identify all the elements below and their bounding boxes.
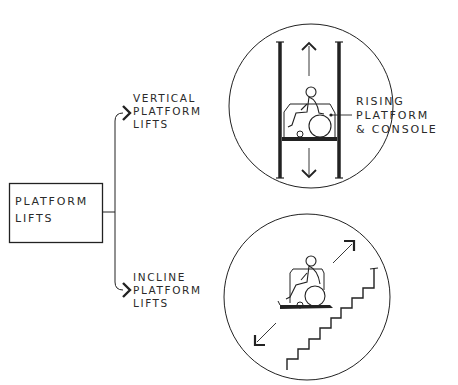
incline-label-line: LIFTS [133, 297, 202, 310]
rising-platform-callout-label: RISING PLATFORM & CONSOLE [356, 95, 438, 137]
platform-console [284, 104, 335, 137]
vertical-label-line: LIFTS [133, 118, 202, 131]
incline-person-head [306, 256, 316, 266]
incline-platform [280, 305, 333, 309]
wheelchair-wheel [309, 115, 331, 137]
person-body [288, 97, 324, 127]
vertical-label-line: VERTICAL [133, 92, 202, 105]
up-right-arrow-shaft [333, 244, 352, 263]
up-right-arrow-icon [344, 241, 354, 251]
incline-lift-circle [224, 214, 390, 380]
incline-wheelchair-wheel [305, 286, 325, 306]
incline-lift-illustration [224, 214, 390, 380]
down-left-arrow-icon [255, 335, 265, 345]
arrowhead-vertical [123, 106, 130, 120]
arrowhead-incline [123, 283, 130, 297]
root-label: PLATFORM LIFTS [15, 193, 88, 227]
callout-label-line: RISING [356, 95, 438, 109]
branch-trunk [115, 113, 123, 290]
incline-lifts-label: INCLINE PLATFORM LIFTS [133, 271, 202, 310]
callout-label-line: PLATFORM [356, 109, 438, 123]
person-head [306, 87, 316, 97]
platform-edge [278, 301, 280, 305]
callout-label-line: & CONSOLE [356, 123, 438, 137]
root-label-line: PLATFORM [15, 193, 88, 210]
root-label-line: LIFTS [15, 210, 88, 227]
vertical-lifts-label: VERTICAL PLATFORM LIFTS [133, 92, 202, 131]
rising-platform [282, 137, 337, 141]
vertical-label-line: PLATFORM [133, 105, 202, 118]
staircase [287, 268, 374, 370]
down-left-arrow-shaft [257, 323, 276, 342]
stair-rail-cap [370, 268, 378, 269]
incline-label-line: INCLINE [133, 271, 202, 284]
incline-label-line: PLATFORM [133, 284, 202, 297]
wheelchair-caster [297, 131, 303, 137]
